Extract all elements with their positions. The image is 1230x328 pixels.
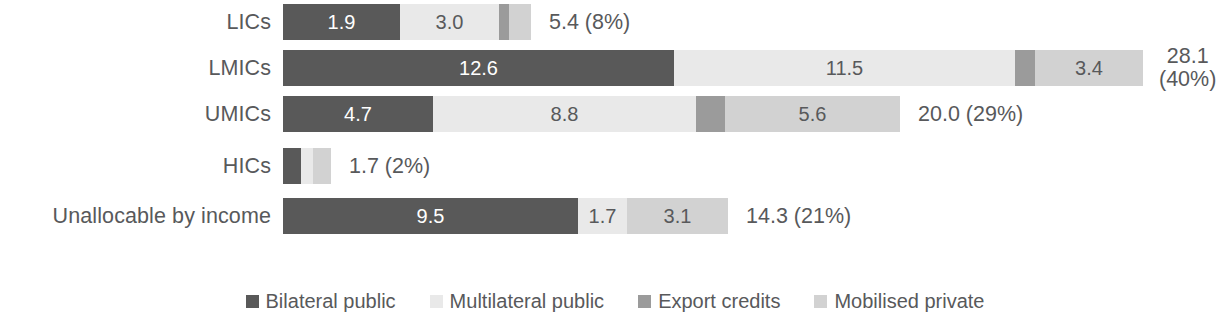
legend-swatch-icon bbox=[814, 295, 827, 308]
segment-value-label: 5.6 bbox=[799, 104, 827, 124]
stacked-bar-chart: LICs1.93.05.4 (8%)LMICs12.611.53.428.1(4… bbox=[0, 0, 1230, 328]
legend-label: Export credits bbox=[658, 290, 780, 313]
stacked-bar: 9.51.73.1 bbox=[283, 198, 728, 234]
segment-value-label: 11.5 bbox=[826, 58, 863, 78]
row-total-label: 14.3 (21%) bbox=[728, 205, 851, 228]
segment-value-label: 9.5 bbox=[417, 206, 445, 226]
legend-label: Multilateral public bbox=[450, 290, 605, 313]
bar-segment bbox=[283, 148, 301, 184]
row-total-label: 5.4 (8%) bbox=[531, 11, 630, 34]
bar-segment bbox=[313, 148, 331, 184]
row-total-label: 28.1(40%) bbox=[1143, 45, 1216, 90]
bar-segment: 1.9 bbox=[283, 4, 400, 40]
chart-row: HICs1.7 (2%) bbox=[0, 148, 1230, 184]
segment-value-label: 1.7 bbox=[589, 206, 617, 226]
category-label: HICs bbox=[0, 154, 283, 179]
chart-row: UMICs4.78.85.620.0 (29%) bbox=[0, 96, 1230, 132]
legend-label: Mobilised private bbox=[834, 290, 984, 313]
category-label: UMICs bbox=[0, 102, 283, 127]
bar-segment: 5.6 bbox=[725, 96, 900, 132]
segment-value-label: 4.7 bbox=[344, 104, 372, 124]
legend-item: Export credits bbox=[638, 290, 780, 313]
bar-segment: 3.4 bbox=[1035, 50, 1143, 86]
bar-segment bbox=[499, 4, 509, 40]
segment-value-label: 8.8 bbox=[551, 104, 579, 124]
segment-value-label: 3.0 bbox=[436, 12, 464, 32]
chart-legend: Bilateral publicMultilateral publicExpor… bbox=[0, 290, 1230, 313]
legend-swatch-icon bbox=[246, 295, 259, 308]
row-total-value: 28.1 bbox=[1159, 45, 1216, 68]
chart-row: LMICs12.611.53.428.1(40%) bbox=[0, 50, 1230, 86]
row-total-label: 20.0 (29%) bbox=[900, 103, 1023, 126]
chart-row: Unallocable by income9.51.73.114.3 (21%) bbox=[0, 198, 1230, 234]
stacked-bar: 12.611.53.4 bbox=[283, 50, 1143, 86]
legend-swatch-icon bbox=[430, 295, 443, 308]
bar-segment: 3.0 bbox=[400, 4, 499, 40]
bar-segment: 11.5 bbox=[674, 50, 1015, 86]
row-total-percent: (40%) bbox=[1159, 68, 1216, 91]
legend-item: Mobilised private bbox=[814, 290, 984, 313]
stacked-bar bbox=[283, 148, 331, 184]
legend-item: Bilateral public bbox=[246, 290, 396, 313]
legend-item: Multilateral public bbox=[430, 290, 605, 313]
legend-swatch-icon bbox=[638, 295, 651, 308]
segment-value-label: 3.4 bbox=[1075, 58, 1103, 78]
bar-segment: 8.8 bbox=[433, 96, 696, 132]
row-total-label: 1.7 (2%) bbox=[331, 155, 430, 178]
chart-row: LICs1.93.05.4 (8%) bbox=[0, 4, 1230, 40]
bar-segment bbox=[509, 4, 531, 40]
bar-segment bbox=[301, 148, 313, 184]
bar-segment: 1.7 bbox=[578, 198, 627, 234]
bar-segment: 3.1 bbox=[627, 198, 728, 234]
category-label: Unallocable by income bbox=[0, 204, 283, 229]
stacked-bar: 1.93.0 bbox=[283, 4, 531, 40]
segment-value-label: 1.9 bbox=[328, 12, 356, 32]
segment-value-label: 3.1 bbox=[664, 206, 692, 226]
category-label: LICs bbox=[0, 10, 283, 35]
bar-segment: 4.7 bbox=[283, 96, 433, 132]
stacked-bar: 4.78.85.6 bbox=[283, 96, 900, 132]
bar-segment: 9.5 bbox=[283, 198, 578, 234]
segment-value-label: 12.6 bbox=[459, 58, 498, 78]
bar-segment bbox=[1015, 50, 1035, 86]
bar-segment bbox=[696, 96, 725, 132]
bar-segment: 12.6 bbox=[283, 50, 674, 86]
legend-label: Bilateral public bbox=[266, 290, 396, 313]
category-label: LMICs bbox=[0, 56, 283, 81]
